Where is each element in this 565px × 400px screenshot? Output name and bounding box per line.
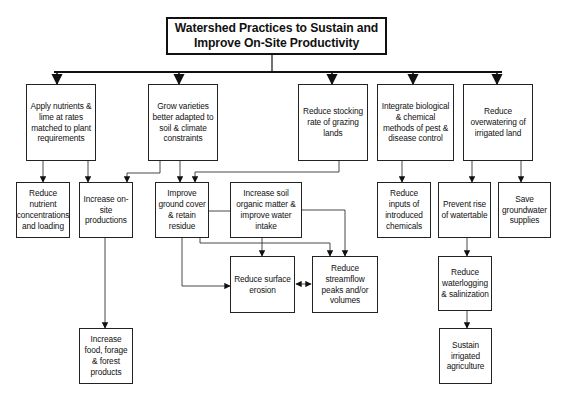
node-increase-onsite-productions: Increase on-site productions: [79, 182, 133, 238]
node-increase-food-forage: Increase food, forage & forest products: [79, 328, 133, 384]
diagram-title: Watershed Practices to Sustain and Impro…: [170, 21, 383, 51]
node-reduce-stocking: Reduce stocking rate of grazing lands: [298, 84, 368, 161]
diagram-title-box: Watershed Practices to Sustain and Impro…: [166, 17, 387, 55]
node-apply-nutrients: Apply nutrients & lime at rates matched …: [26, 84, 96, 161]
node-save-groundwater: Save groundwater supplies: [498, 182, 551, 238]
watershed-practices-diagram: Watershed Practices to Sustain and Impro…: [0, 0, 565, 400]
node-label: Reduce streamflow peaks and/or volumes: [315, 263, 375, 306]
node-label: Prevent rise of watertable: [441, 199, 488, 221]
node-improve-ground-cover: Improve ground cover & retain residue: [155, 182, 209, 238]
node-reduce-overwatering: Reduce overwatering of irrigated land: [463, 84, 533, 161]
node-label: Reduce stocking rate of grazing lands: [301, 106, 365, 138]
arrow-stocking-to-ground-cover: [195, 161, 339, 182]
arrow-ground-cover-to-streamflow: [200, 238, 330, 256]
node-reduce-waterlogging: Reduce waterlogging & salinization: [438, 256, 492, 311]
node-label: Reduce waterlogging & salinization: [441, 267, 489, 299]
node-label: Reduce overwatering of irrigated land: [466, 106, 530, 138]
node-reduce-nutrient-concentrations: Reduce nutrient concentrations and loadi…: [16, 182, 70, 238]
arrow-soil-om-to-streamflow: [302, 210, 345, 256]
node-label: Apply nutrients & lime at rates matched …: [29, 101, 93, 144]
node-label: Increase soil organic matter & improve w…: [233, 188, 299, 231]
node-integrate-pest-control: Integrate biological & chemical methods …: [377, 84, 454, 161]
node-label: Increase on-site productions: [82, 194, 130, 226]
node-label: Reduce nutrient concentrations and loadi…: [17, 188, 70, 231]
node-reduce-inputs-chemicals: Reduce inputs of introduced chemicals: [377, 182, 431, 238]
node-grow-varieties: Grow varieties better adapted to soil & …: [148, 84, 218, 161]
node-label: Improve ground cover & retain residue: [158, 188, 206, 231]
node-label: Reduce surface erosion: [233, 274, 292, 296]
node-label: Increase food, forage & forest products: [82, 334, 130, 377]
arrow-grow-to-increase-onsite: [127, 161, 160, 182]
node-prevent-rise-watertable: Prevent rise of watertable: [438, 182, 491, 238]
node-sustain-irrigated-agriculture: Sustain irrigated agriculture: [439, 328, 492, 384]
node-increase-soil-organic-matter: Increase soil organic matter & improve w…: [230, 182, 302, 238]
node-label: Reduce inputs of introduced chemicals: [380, 188, 428, 231]
node-label: Sustain irrigated agriculture: [442, 340, 489, 372]
node-reduce-surface-erosion: Reduce surface erosion: [230, 256, 295, 313]
arrow-ground-cover-to-erosion: [182, 238, 230, 286]
node-label: Grow varieties better adapted to soil & …: [151, 101, 215, 144]
node-label: Save groundwater supplies: [501, 194, 548, 226]
node-reduce-streamflow: Reduce streamflow peaks and/or volumes: [312, 256, 378, 313]
node-label: Integrate biological & chemical methods …: [380, 101, 451, 144]
